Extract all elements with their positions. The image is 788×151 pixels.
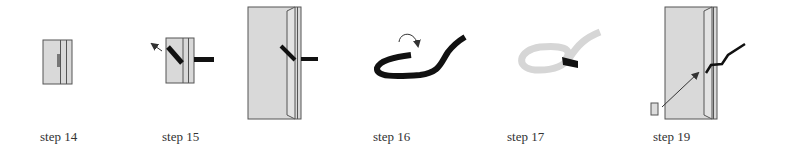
pull-arrow-icon bbox=[152, 44, 162, 51]
step-17-illustration bbox=[522, 32, 600, 70]
step-19-label: step 19 bbox=[653, 129, 690, 145]
strap-slot-icon bbox=[57, 54, 60, 67]
step-16-illustration bbox=[377, 34, 465, 76]
step-14-illustration bbox=[43, 40, 72, 84]
instruction-diagram: step 14 step 15 step 16 step 17 step 19 bbox=[0, 0, 788, 151]
step-16-label: step 16 bbox=[373, 129, 410, 145]
rotate-arrow-icon bbox=[399, 34, 418, 46]
clip-piece-icon bbox=[651, 103, 658, 115]
step-15-label: step 15 bbox=[162, 129, 199, 145]
step-15-small-illustration bbox=[152, 38, 214, 83]
step-15-large-illustration bbox=[248, 7, 318, 119]
step-19-illustration bbox=[651, 7, 745, 119]
step-14-label: step 14 bbox=[40, 129, 77, 145]
step-17-label: step 17 bbox=[507, 129, 544, 145]
